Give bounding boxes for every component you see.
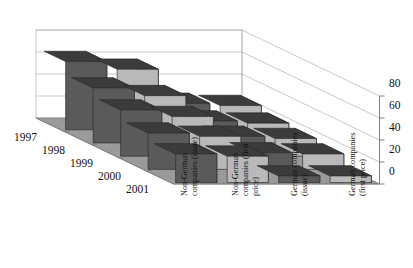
category-label-0: Non-German companies (issue) bbox=[180, 137, 199, 196]
category-label-1: Non-German companies (first price) bbox=[231, 142, 260, 196]
category-label-line: Non-German bbox=[180, 153, 189, 196]
y-tick-label: 0 bbox=[389, 165, 395, 177]
chart-text-layer: 80 60 40 20 0 1997 1998 1999 2000 2001 N… bbox=[0, 0, 413, 268]
y-tick-label: 20 bbox=[389, 143, 401, 155]
row-label-2001: 2001 bbox=[126, 183, 149, 195]
category-axis-labels: Non-German companies (issue) Non-German … bbox=[180, 133, 367, 196]
row-label-1997: 1997 bbox=[14, 131, 37, 143]
category-label-line: companies (first bbox=[241, 142, 250, 196]
y-tick-label: 60 bbox=[389, 99, 401, 111]
y-axis-ticks: 80 60 40 20 0 bbox=[389, 77, 401, 177]
row-label-1998: 1998 bbox=[42, 144, 65, 156]
row-axis-labels: 1997 1998 1999 2000 2001 bbox=[14, 131, 149, 195]
y-tick-label: 80 bbox=[389, 77, 401, 89]
category-label-line: German companies bbox=[290, 133, 299, 196]
chart-3d-bar: 80 60 40 20 0 1997 1998 1999 2000 2001 N… bbox=[0, 0, 413, 268]
category-label-line: price) bbox=[251, 177, 260, 196]
category-label-line: German companies bbox=[348, 133, 357, 196]
category-label-2: German companies (issue) bbox=[290, 133, 309, 196]
category-label-line: companies (issue) bbox=[190, 137, 199, 196]
category-label-line: (issue) bbox=[300, 174, 309, 196]
category-label-line: Non-German bbox=[231, 153, 240, 196]
row-label-1999: 1999 bbox=[70, 157, 93, 169]
y-tick-label: 40 bbox=[389, 121, 401, 133]
category-label-3: German companies (first price) bbox=[348, 133, 367, 196]
category-label-line: (first price) bbox=[358, 159, 367, 196]
row-label-2000: 2000 bbox=[98, 170, 121, 182]
